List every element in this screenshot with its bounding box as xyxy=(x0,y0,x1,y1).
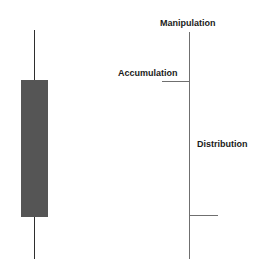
candle-body xyxy=(21,80,48,217)
candle-lower-wick xyxy=(34,217,35,259)
label-accumulation: Accumulation xyxy=(118,68,178,78)
ohlc-range-line xyxy=(189,32,190,259)
label-manipulation: Manipulation xyxy=(160,18,216,28)
ohlc-open-tick xyxy=(162,81,189,82)
candle-upper-wick xyxy=(34,30,35,80)
label-distribution: Distribution xyxy=(197,139,248,149)
ohlc-close-tick xyxy=(190,215,218,216)
